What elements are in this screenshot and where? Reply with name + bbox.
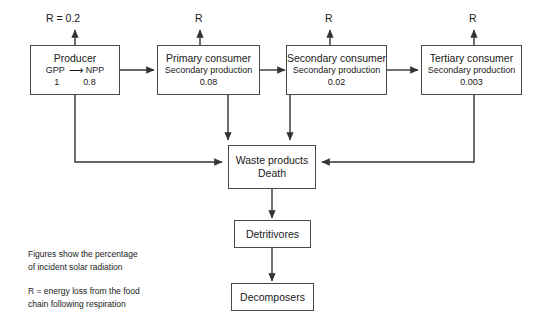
energy-flow-diagram: R = 0.2 R R R Producer GPP ⟶ NPP 1 0.8 P…	[0, 0, 545, 329]
legend-respiration-line2: chain following respiration	[28, 298, 140, 311]
node-secondary-consumer-title: Secondary consumer	[287, 52, 386, 65]
node-tertiary-consumer[interactable]: Tertiary consumer Secondary production 0…	[421, 45, 522, 95]
node-waste-products-line2: Death	[258, 167, 286, 180]
node-secondary-consumer-subtitle: Secondary production	[293, 65, 381, 77]
gpp-label: GPP	[46, 65, 65, 77]
legend-figures: Figures show the percentage of incident …	[28, 248, 138, 273]
node-tertiary-consumer-value: 0.003	[460, 77, 483, 89]
node-tertiary-consumer-subtitle: Secondary production	[428, 65, 516, 77]
node-secondary-consumer-value: 0.02	[328, 77, 346, 89]
flow-producer-to-waste	[75, 95, 222, 162]
respiration-label-producer: R = 0.2	[46, 12, 80, 24]
node-primary-consumer-title: Primary consumer	[166, 52, 251, 65]
respiration-label-primary: R	[195, 12, 203, 24]
node-detritivores-title: Detritivores	[246, 228, 299, 241]
node-decomposers[interactable]: Decomposers	[231, 283, 314, 311]
node-tertiary-consumer-title: Tertiary consumer	[430, 52, 513, 65]
gpp-value: 1	[54, 77, 59, 89]
node-primary-consumer-subtitle: Secondary production	[165, 65, 253, 77]
respiration-label-secondary: R	[325, 12, 333, 24]
legend-respiration: R = energy loss from the food chain foll…	[28, 285, 140, 310]
respiration-label-tertiary: R	[469, 12, 477, 24]
node-primary-consumer-value: 0.08	[200, 77, 218, 89]
flow-tertiary-to-waste	[322, 95, 474, 162]
node-waste-products-line1: Waste products	[236, 154, 309, 167]
right-arrow-icon: ⟶	[69, 65, 82, 77]
node-producer-gpp-row: GPP ⟶ NPP	[46, 65, 105, 77]
node-decomposers-title: Decomposers	[240, 291, 305, 304]
legend-respiration-line1: R = energy loss from the food	[28, 285, 140, 298]
npp-value: 0.8	[83, 77, 96, 89]
node-primary-consumer[interactable]: Primary consumer Secondary production 0.…	[157, 45, 260, 95]
legend-figures-line1: Figures show the percentage	[28, 248, 138, 261]
node-producer-title: Producer	[54, 52, 97, 65]
npp-label: NPP	[86, 65, 105, 77]
node-secondary-consumer[interactable]: Secondary consumer Secondary production …	[286, 45, 387, 95]
legend-figures-line2: of incident solar radiation	[28, 261, 138, 274]
node-waste-products[interactable]: Waste products Death	[228, 145, 316, 189]
node-producer-values: 1 0.8	[54, 77, 96, 89]
node-producer[interactable]: Producer GPP ⟶ NPP 1 0.8	[30, 45, 120, 95]
node-detritivores[interactable]: Detritivores	[234, 220, 311, 248]
